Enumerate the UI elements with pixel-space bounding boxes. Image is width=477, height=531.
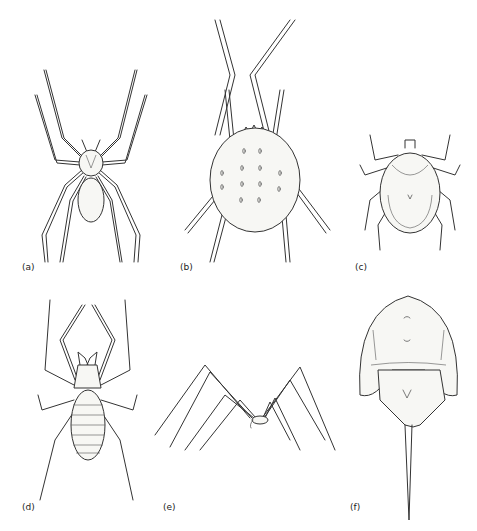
- panel-label-e: (e): [163, 502, 176, 512]
- panel-label-b: (b): [180, 262, 193, 272]
- spider-illustration: [35, 70, 147, 262]
- horseshoe-crab-illustration: [360, 296, 458, 520]
- tick-illustration: [360, 135, 460, 250]
- solifuge-illustration: [38, 300, 137, 500]
- panel-label-c: (c): [355, 262, 367, 272]
- panel-label-a: (a): [22, 262, 35, 272]
- panel-label-f: (f): [350, 502, 360, 512]
- panel-label-d: (d): [22, 502, 35, 512]
- harvestman-illustration: [155, 365, 335, 450]
- arachnid-figure: (a) (b) (c) (d) (e) (f): [0, 0, 477, 531]
- mite-illustration: [185, 20, 330, 262]
- illustrations: [0, 0, 477, 531]
